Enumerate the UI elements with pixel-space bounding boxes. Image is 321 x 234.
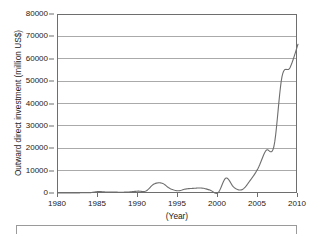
- x-tick-label-1990: 1990: [128, 199, 146, 208]
- y-tick-mark-0: [49, 193, 54, 194]
- y-tick-label-0: 0: [44, 189, 48, 197]
- x-tick-label-2005: 2005: [248, 199, 266, 208]
- legend-box: [16, 225, 297, 234]
- plot-area: [57, 14, 297, 193]
- y-tick-mark-40000: [49, 103, 54, 104]
- x-axis-title: (Year): [57, 211, 297, 221]
- x-tick-mark-1995: [177, 193, 178, 197]
- y-tick-mark-60000: [49, 58, 54, 59]
- chart-figure: Outward direct investment (million US$) …: [0, 0, 321, 234]
- y-axis: 0100002000030000400005000060000700008000…: [0, 0, 57, 194]
- x-tick-mark-1990: [137, 193, 138, 197]
- y-tick-label-10000: 10000: [26, 167, 48, 175]
- y-tick-mark-50000: [49, 81, 54, 82]
- y-tick-label-80000: 80000: [26, 10, 48, 18]
- y-tick-mark-70000: [49, 36, 54, 37]
- x-tick-mark-1985: [97, 193, 98, 197]
- y-tick-mark-20000: [49, 148, 54, 149]
- y-tick-mark-30000: [49, 125, 54, 126]
- y-tick-label-70000: 70000: [26, 32, 48, 40]
- series-polyline: [58, 44, 298, 193]
- x-tick-mark-2000: [217, 193, 218, 197]
- x-tick-label-1985: 1985: [88, 199, 106, 208]
- x-tick-label-1995: 1995: [168, 199, 186, 208]
- y-tick-label-20000: 20000: [26, 144, 48, 152]
- y-tick-mark-80000: [49, 14, 54, 15]
- x-tick-mark-2010: [297, 193, 298, 197]
- y-tick-mark-10000: [49, 170, 54, 171]
- x-tick-mark-2005: [257, 193, 258, 197]
- x-tick-label-2010: 2010: [288, 199, 306, 208]
- series-line-outward-direct-investment: [58, 14, 298, 193]
- x-tick-label-2000: 2000: [208, 199, 226, 208]
- y-tick-label-30000: 30000: [26, 122, 48, 130]
- x-tick-label-1980: 1980: [48, 199, 66, 208]
- y-tick-label-40000: 40000: [26, 100, 48, 108]
- y-tick-label-60000: 60000: [26, 55, 48, 63]
- x-tick-mark-1980: [57, 193, 58, 197]
- y-tick-label-50000: 50000: [26, 77, 48, 85]
